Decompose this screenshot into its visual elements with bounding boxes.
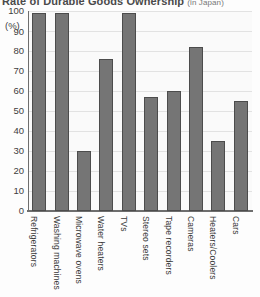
x-axis-label: Microwave ovens xyxy=(74,216,84,284)
x-axis-label-slot: Stereo sets xyxy=(140,214,162,297)
bar xyxy=(122,13,136,211)
y-axis-tick-0: 0 xyxy=(0,206,24,215)
bar xyxy=(77,151,91,211)
bar xyxy=(189,47,203,211)
x-axis-label: Stereo sets xyxy=(141,216,151,261)
bar xyxy=(144,97,158,211)
x-axis-label-slot: Cameras xyxy=(185,214,207,297)
chart-subtitle-text: (in Japan) xyxy=(187,0,224,7)
x-axis-label: Cars xyxy=(231,216,241,235)
x-axis-label: Refrigerators xyxy=(29,216,39,267)
x-axis-label-slot: Cars xyxy=(230,214,252,297)
x-axis-label-slot: Water heaters xyxy=(95,214,117,297)
bar xyxy=(211,141,225,211)
chart-title: Rate of Durable Goods Ownership (in Japa… xyxy=(2,0,260,7)
y-axis-tick-30: 30 xyxy=(0,146,24,155)
x-axis-label: Cameras xyxy=(186,216,196,252)
bars-layer xyxy=(28,11,252,211)
bar xyxy=(234,101,248,211)
bar xyxy=(167,91,181,211)
y-axis-tick-60: 60 xyxy=(0,86,24,95)
x-axis-label-slot: Refrigerators xyxy=(28,214,50,297)
x-axis-label: Washing machines xyxy=(52,216,62,290)
y-axis-tick-90: 90 xyxy=(0,27,24,36)
bar xyxy=(99,59,113,211)
bar xyxy=(55,13,69,211)
x-axis-label: Heaters/Coolers xyxy=(208,216,218,280)
x-axis-label-slot: TVs xyxy=(118,214,140,297)
y-axis-tick-10: 10 xyxy=(0,186,24,195)
chart-title-text: Rate of Durable Goods Ownership xyxy=(2,0,184,7)
bar xyxy=(32,13,46,211)
chart-page: Rate of Durable Goods Ownership (in Japa… xyxy=(0,0,260,297)
y-axis-tick-50: 50 xyxy=(0,106,24,115)
y-axis-tick-40: 40 xyxy=(0,126,24,135)
x-axis-category-labels: RefrigeratorsWashing machinesMicrowave o… xyxy=(28,214,252,297)
x-axis-label: Tape recorders xyxy=(164,216,174,275)
y-axis-tick-20: 20 xyxy=(0,166,24,175)
x-axis-label-slot: Washing machines xyxy=(50,214,72,297)
x-axis-label-slot: Tape recorders xyxy=(162,214,184,297)
y-axis-tick-80: 80 xyxy=(0,46,24,55)
x-axis-label-slot: Microwave ovens xyxy=(73,214,95,297)
x-axis-label: Water heaters xyxy=(96,216,106,271)
x-axis-label: TVs xyxy=(119,216,129,232)
y-axis-tick-70: 70 xyxy=(0,66,24,75)
y-axis-tick-100: 100 xyxy=(0,6,24,15)
x-axis-label-slot: Heaters/Coolers xyxy=(207,214,229,297)
